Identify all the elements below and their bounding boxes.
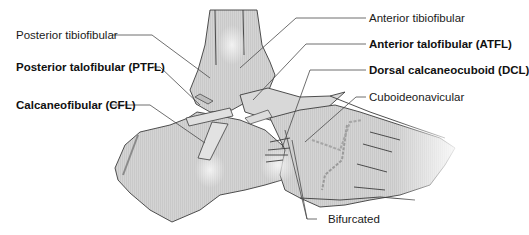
label-anterior-tibiofibular: Anterior tibiofibular (369, 12, 465, 25)
label-calcaneofibular: Calcaneofibular (CFL) (16, 99, 135, 112)
label-bifurcated: Bifurcated (328, 213, 380, 226)
label-anterior-talofibular: Anterior talofibular (ATFL) (369, 38, 512, 51)
label-posterior-talofibular: Posterior talofibular (PTFL) (16, 61, 165, 74)
label-posterior-tibiofibular: Posterior tibiofibular (16, 29, 118, 42)
label-dorsal-calcaneocuboid: Dorsal calcaneocuboid (DCL) (369, 64, 529, 77)
highlight (218, 25, 246, 65)
forefoot-fade (395, 100, 465, 210)
label-cuboideonavicular: Cuboideonavicular (369, 91, 464, 104)
